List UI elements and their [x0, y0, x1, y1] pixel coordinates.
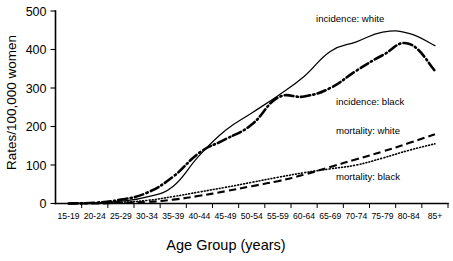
series-annotation-mortality-white: mortality: white: [336, 125, 400, 136]
chart-container: 0100200300400500 Rates/100,000 women 15-…: [0, 0, 453, 261]
x-tick-label: 70-74: [345, 211, 367, 221]
x-tick-label: 35-39: [162, 211, 184, 221]
x-tick-label: 55-59: [267, 211, 289, 221]
x-axis-group: 15-1920-2425-2930-3435-3940-4445-4950-54…: [56, 204, 449, 254]
y-axis-title: Rates/100,000 women: [4, 35, 19, 170]
x-tick-label: 15-19: [58, 211, 80, 221]
x-tick-label: 40-44: [188, 211, 210, 221]
y-tick-label: 200: [26, 120, 47, 134]
y-axis-group: 0100200300400500 Rates/100,000 women: [4, 5, 56, 212]
x-tick-label: 30-34: [136, 211, 158, 221]
series-annotations: incidence: whiteincidence: blackmortalit…: [316, 13, 404, 182]
y-tick-label: 100: [26, 159, 47, 173]
x-tick-label: 20-24: [84, 211, 106, 221]
x-axis-title: Age Group (years): [166, 237, 285, 253]
y-tick-label: 500: [26, 5, 47, 19]
rates-by-age-line-chart: 0100200300400500 Rates/100,000 women 15-…: [0, 0, 453, 261]
x-axis-tick-labels: 15-1920-2425-2930-3435-3940-4445-4950-54…: [58, 211, 443, 221]
series-annotation-incidence-white: incidence: white: [316, 13, 384, 24]
series-annotation-mortality-black: mortality: black: [336, 171, 400, 182]
x-tick-label: 50-54: [241, 211, 263, 221]
x-tick-label: 85+: [428, 211, 443, 221]
x-tick-label: 45-49: [215, 211, 237, 221]
x-tick-label: 80-84: [398, 211, 420, 221]
y-axis-tick-labels: 0100200300400500: [26, 5, 47, 212]
y-tick-label: 300: [26, 82, 47, 96]
x-tick-label: 25-29: [110, 211, 132, 221]
series-annotation-incidence-black: incidence: black: [336, 96, 404, 107]
x-tick-label: 75-79: [372, 211, 394, 221]
x-tick-label: 65-69: [319, 211, 341, 221]
y-tick-label: 0: [40, 197, 47, 211]
x-tick-label: 60-64: [293, 211, 315, 221]
series-line-mortality-white: [69, 134, 435, 203]
y-tick-label: 400: [26, 43, 47, 57]
